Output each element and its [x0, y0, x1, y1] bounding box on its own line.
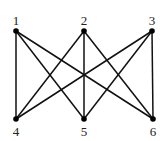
edge-3-6: [152, 31, 153, 119]
node-2: [81, 28, 87, 34]
node-label-1: 1: [13, 13, 20, 28]
node-label-4: 4: [13, 124, 20, 139]
node-5: [81, 116, 87, 122]
node-6: [150, 116, 156, 122]
node-label-2: 2: [81, 13, 88, 28]
node-3: [149, 28, 155, 34]
bipartite-graph-diagram: 123456: [0, 0, 160, 141]
node-label-5: 5: [81, 124, 88, 139]
node-4: [13, 116, 19, 122]
node-label-3: 3: [149, 13, 156, 28]
node-1: [13, 28, 19, 34]
node-label-6: 6: [150, 124, 157, 139]
edges-group: [16, 31, 153, 119]
